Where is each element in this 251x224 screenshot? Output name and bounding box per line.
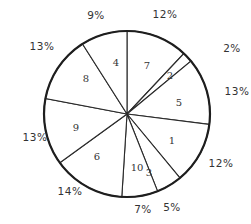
slice-percent-label: 9% [87, 9, 105, 21]
slice-number-label: 10 [131, 162, 144, 173]
slice-number-label: 4 [113, 57, 119, 68]
pie-chart: 72513106984 12%2%13%12%5%7%14%13%13%9% [0, 0, 251, 224]
slice-percent-label: 5% [163, 201, 181, 213]
slice-percent-label: 13% [23, 131, 48, 143]
slice-number-label: 8 [83, 73, 89, 84]
slice-number-label: 3 [146, 167, 152, 178]
slice-percent-label: 12% [209, 157, 234, 169]
slice-percent-label: 12% [153, 8, 178, 20]
slice-percent-label: 7% [134, 203, 152, 215]
slice-percent-label: 13% [225, 85, 250, 97]
slice-number-label: 9 [73, 122, 79, 133]
slice-number-label: 7 [144, 60, 150, 71]
slice-percent-label: 2% [223, 42, 241, 54]
slice-number-label: 5 [176, 97, 182, 108]
slice-number-label: 1 [169, 135, 175, 146]
slice-number-label: 6 [94, 151, 100, 162]
slice-number-label: 2 [167, 70, 173, 81]
slice-percent-label: 13% [30, 40, 55, 52]
slice-percent-label: 14% [58, 185, 83, 197]
